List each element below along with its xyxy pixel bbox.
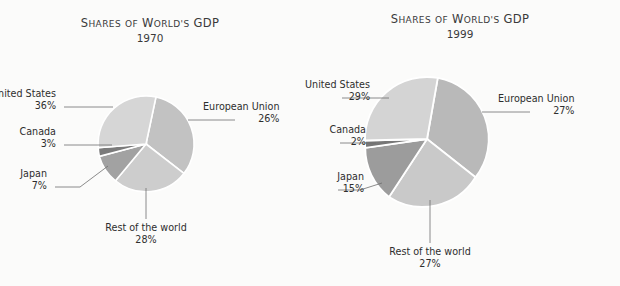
slice-united-states	[365, 77, 438, 140]
leader-line-japan	[55, 166, 108, 187]
label-percent: 27%	[498, 105, 574, 117]
label-text: United States	[305, 79, 370, 90]
pie-slices-1970	[98, 96, 194, 192]
label-text: Japan	[337, 171, 364, 182]
label-percent: 27%	[370, 258, 490, 270]
label-text: European Union	[203, 101, 279, 112]
label-european-union-1999: European Union 27%	[498, 93, 574, 117]
label-united-states-1999: United States 29%	[305, 79, 370, 103]
label-japan-1999: Japan 15%	[337, 171, 364, 195]
label-rest-of-the-world-1999: Rest of the world 27%	[370, 246, 490, 270]
pie-chart-1999: SHARES OF WORLD'S GDP 1999	[300, 0, 620, 286]
label-text: Canada	[329, 124, 366, 135]
label-percent: 15%	[337, 183, 364, 195]
label-japan-1970: Japan 7%	[20, 168, 47, 192]
label-percent: 3%	[19, 138, 56, 150]
label-text: Japan	[20, 168, 47, 179]
label-percent: 26%	[203, 113, 279, 125]
pie-slices-1999	[365, 77, 489, 207]
label-united-states-1970: United States 36%	[0, 88, 56, 112]
label-percent: 36%	[0, 100, 56, 112]
label-percent: 2%	[329, 136, 366, 148]
label-rest-of-the-world-1970: Rest of the world 28%	[86, 222, 206, 246]
label-text: Rest of the world	[105, 222, 186, 233]
slice-united-states	[98, 96, 156, 148]
label-percent: 28%	[86, 234, 206, 246]
label-text: Rest of the world	[389, 246, 470, 257]
label-text: European Union	[498, 93, 574, 104]
label-european-union-1970: European Union 26%	[203, 101, 279, 125]
pie-chart-1970: SHARES OF WORLD'S GDP 1970	[0, 0, 300, 286]
label-percent: 29%	[305, 91, 370, 103]
label-canada-1970: Canada 3%	[19, 126, 56, 150]
label-text: Canada	[19, 126, 56, 137]
figure-canvas: SHARES OF WORLD'S GDP 1970	[0, 0, 620, 286]
label-canada-1999: Canada 2%	[329, 124, 366, 148]
label-text: United States	[0, 88, 56, 99]
label-percent: 7%	[20, 180, 47, 192]
